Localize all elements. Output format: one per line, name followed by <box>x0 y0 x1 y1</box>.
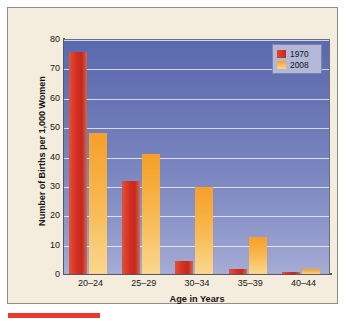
legend-swatch-icon <box>277 50 286 58</box>
bar-2008-40–44 <box>302 269 320 274</box>
bar-2008-35–39 <box>249 237 267 274</box>
y-tick-label: 40 <box>36 152 60 162</box>
y-tick-label: 60 <box>36 93 60 103</box>
x-tick-label: 30–34 <box>170 278 223 288</box>
legend-label: 1970 <box>290 49 309 59</box>
x-axis-title: Age in Years <box>64 294 330 304</box>
chart-figure: Number of Births per 1,000 Women 0102030… <box>7 7 338 304</box>
y-tick-label: 80 <box>36 34 60 44</box>
bar-group <box>224 40 277 274</box>
y-tick-label: 0 <box>36 269 60 279</box>
x-tick-label: 40–44 <box>277 278 330 288</box>
bar-groups <box>64 40 329 274</box>
bar-group <box>170 40 223 274</box>
y-axis-tick-labels: 01020304050607080 <box>36 39 60 274</box>
footer-accent-rule <box>8 313 100 318</box>
legend-swatch-icon <box>277 61 286 69</box>
chart-legend: 19702008 <box>272 44 322 74</box>
bar-group <box>117 40 170 274</box>
x-tick-label: 35–39 <box>224 278 277 288</box>
x-tick-label: 25–29 <box>117 278 170 288</box>
legend-item-2008: 2008 <box>277 59 318 70</box>
x-tick-label: 20–24 <box>64 278 117 288</box>
x-axis-tick-labels: 20–2425–2930–3435–3940–44 <box>64 278 330 292</box>
legend-label: 2008 <box>290 60 309 70</box>
bar-2008-30–34 <box>195 187 213 274</box>
bar-group <box>277 40 330 274</box>
y-tick-label: 10 <box>36 240 60 250</box>
plot-area <box>64 39 330 274</box>
legend-item-1970: 1970 <box>277 48 318 59</box>
bar-1970-40–44 <box>282 272 300 274</box>
y-tick-label: 20 <box>36 210 60 220</box>
bar-1970-35–39 <box>229 269 247 274</box>
bar-2008-20–24 <box>89 133 107 274</box>
bar-group <box>64 40 117 274</box>
y-tick-label: 70 <box>36 63 60 73</box>
y-tick-label: 30 <box>36 181 60 191</box>
bar-1970-30–34 <box>175 261 193 274</box>
bar-1970-25–29 <box>122 181 140 274</box>
y-tick-label: 50 <box>36 122 60 132</box>
bar-2008-25–29 <box>142 154 160 274</box>
bar-1970-20–24 <box>69 52 87 274</box>
